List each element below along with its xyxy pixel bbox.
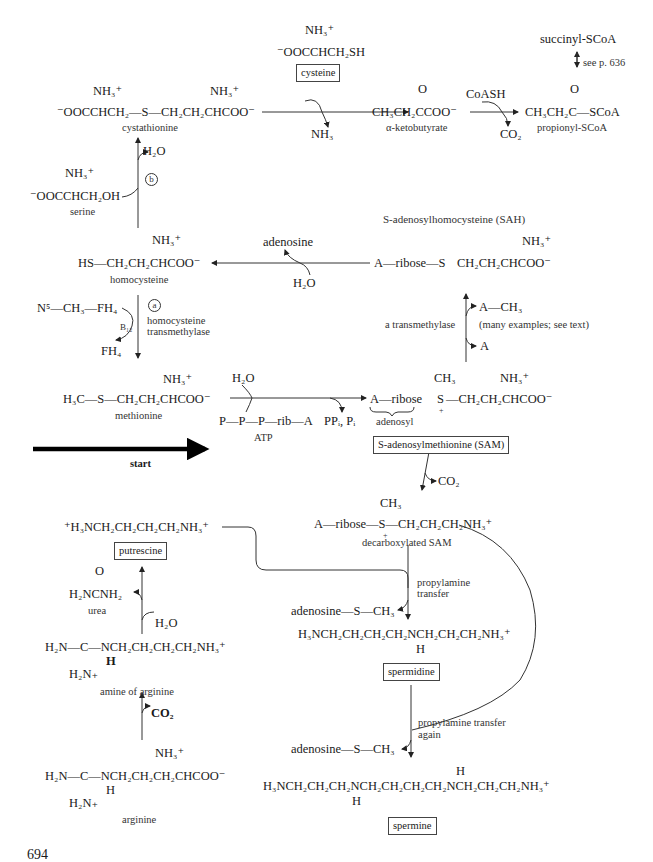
- cysteine-formula: ⁻OOCCHCH₂SH: [277, 46, 365, 59]
- spermine-nh-top: H: [456, 765, 465, 778]
- propylamine-transfer-1b: transfer: [417, 589, 449, 600]
- arginine-imine: H₂N₊: [69, 797, 98, 810]
- cystathionine-label: cystathionine: [122, 123, 178, 134]
- propylamine-transfer-1: propylamine: [417, 578, 470, 589]
- sam-formula-left: A—ribose: [370, 393, 422, 406]
- dcsam-methyl: CH₃: [380, 497, 402, 510]
- arginine-label: arginine: [122, 815, 156, 826]
- spermine-formula: H₃NCH₂CH₂CH₂NCH₂CH₂CH₂CH₂NCH₂CH₂CH₂NH₃⁺: [263, 780, 550, 793]
- serine-amine: NH₃⁺: [65, 167, 94, 180]
- putrescine-box: putrescine: [114, 542, 167, 560]
- sam-charge: +: [439, 407, 444, 415]
- see-page-note: see p. 636: [583, 58, 625, 69]
- succinyl-scoa: succinyl-SCoA: [540, 33, 616, 46]
- cystathionine-amine-left: NH₃⁺: [93, 85, 122, 98]
- n5-methyl-fh4: N⁵—CH₃—FH₄: [37, 302, 117, 315]
- ketobutyrate-carbonyl: O: [418, 83, 427, 96]
- ppi-pi-product: PPᵢ, Pᵢ: [324, 415, 355, 428]
- fh4-product: FH₄: [101, 345, 121, 358]
- sam-methyl: CH₃: [434, 372, 456, 385]
- mta-product-2: adenosine—S—CH₃: [291, 743, 395, 756]
- putrescine-formula: ⁺H₃NCH₂CH₂CH₂CH₂NH₃⁺: [64, 521, 209, 534]
- methyl-acceptor: A: [480, 340, 489, 353]
- amine-of-arginine-formula: H₂N—C—NCH₂CH₂CH₂CH₂NH₃⁺: [45, 641, 226, 654]
- sam-sulfur: S: [437, 393, 444, 406]
- serine-formula: ⁻OOCCHCH₂OH: [30, 190, 120, 203]
- urea-label: urea: [88, 606, 106, 617]
- amine-of-arginine-nh: H: [106, 655, 116, 668]
- methylated-acceptor: A—CH₃: [479, 301, 522, 314]
- homocysteine-amine: NH₃⁺: [152, 234, 181, 247]
- methionine-amine: NH₃⁺: [163, 373, 192, 386]
- serine-label: serine: [70, 207, 95, 218]
- cystathionine-amine-right: NH₃⁺: [210, 85, 239, 98]
- spermidine-box: spermidine: [383, 663, 440, 681]
- amine-of-arginine-imine: H₂N₊: [69, 668, 98, 681]
- b12-cofactor: B₁₂: [120, 323, 132, 332]
- spermidine-nh: H: [416, 643, 425, 656]
- sah-label: S-adenosylhomocysteine (SAH): [383, 214, 525, 225]
- sah-formula-left: A—ribose—S: [374, 257, 446, 270]
- page-number: 694: [27, 848, 48, 862]
- step-b-icon: b: [145, 173, 158, 186]
- sam-box: S-adenosylmethionine (SAM): [373, 436, 509, 454]
- cysteine-amine: NH₃⁺: [305, 24, 334, 37]
- spermine-nh-bottom: H: [352, 795, 361, 808]
- urea-formula: H₂NCNH₂: [69, 588, 122, 601]
- nh3-product: NH₃: [311, 128, 333, 141]
- coash-reagent: CoASH: [466, 88, 506, 101]
- homocysteine-formula: HS—CH₂CH₂CHCOO⁻: [78, 257, 200, 270]
- co2-product-sam: CO₂: [438, 475, 460, 488]
- spermine-box: spermine: [388, 817, 437, 835]
- mta-product-1: adenosine—S—CH₃: [291, 605, 395, 618]
- h2o-product-b: H₂O: [143, 145, 165, 158]
- amine-of-arginine-label: amine of arginine: [100, 687, 174, 698]
- h2o-reagent-arginase: H₂O: [155, 617, 177, 630]
- co2-product-top: CO₂: [500, 128, 522, 141]
- many-examples-note: (many examples; see text): [479, 320, 589, 331]
- propylamine-transfer-2b: again: [418, 730, 441, 741]
- propylamine-transfer-2: propylamine transfer: [418, 718, 506, 729]
- dcsam-formula: A—ribose—S—CH₂CH₂CH₂NH₃⁺: [314, 518, 492, 531]
- enzyme-transmethylase: transmethylase: [147, 327, 210, 338]
- propionyl-label: propionyl-SCoA: [537, 123, 607, 134]
- urea-carbonyl: O: [95, 565, 104, 578]
- methionine-label: methionine: [115, 411, 162, 422]
- atp-label: ATP: [254, 433, 273, 444]
- methionine-formula: H₃C—S—CH₂CH₂CHCOO⁻: [63, 393, 210, 406]
- propionyl-carbonyl: O: [570, 83, 579, 96]
- transmethylase-label: a transmethylase: [385, 320, 455, 331]
- dcsam-label: decarboxylated SAM: [362, 538, 452, 549]
- h2o-reagent-sam: H₂O: [232, 372, 254, 385]
- arginine-formula: H₂N—C—NCH₂CH₂CH₂CHCOO⁻: [45, 770, 225, 783]
- ketobutyrate-label: α-ketobutyrate: [386, 123, 447, 134]
- sam-formula-right: —CH₂CH₂CHCOO⁻: [446, 393, 552, 406]
- homocysteine-label: homocysteine: [110, 275, 168, 286]
- sam-amine: NH₃⁺: [500, 372, 529, 385]
- ketobutyrate-formula: CH₃CH₂CCOO⁻: [372, 106, 457, 119]
- spermidine-formula: H₃NCH₂CH₂CH₂CH₂NCH₂CH₂CH₂NH₃⁺: [298, 628, 511, 641]
- step-a-marker: a: [148, 299, 161, 312]
- cysteine-box: cysteine: [296, 64, 340, 82]
- adenosine-product: adenosine: [263, 236, 313, 249]
- sah-formula-right: CH₂CH₂CHCOO⁻: [457, 257, 551, 270]
- adenosyl-label: adenosyl: [376, 417, 413, 428]
- propionyl-formula: CH₃CH₂C—SCoA: [525, 106, 620, 119]
- cystathionine-formula: ⁻OOCCHCH₂—S—CH₂CH₂CHCOO⁻: [57, 106, 255, 119]
- enzyme-homocysteine: homocysteine: [147, 316, 205, 327]
- h2o-reagent-sah: H₂O: [293, 277, 315, 290]
- step-b-marker: b: [145, 173, 158, 186]
- atp-formula: P—P—P—rib—A: [219, 415, 313, 428]
- step-a-icon: a: [148, 299, 161, 312]
- arginine-nh: H: [106, 784, 115, 797]
- sah-amine: NH₃⁺: [522, 235, 551, 248]
- arginine-amine: NH₃⁺: [155, 747, 184, 760]
- co2-product-arginine: CO₂: [151, 707, 174, 720]
- start-label: start: [130, 458, 151, 469]
